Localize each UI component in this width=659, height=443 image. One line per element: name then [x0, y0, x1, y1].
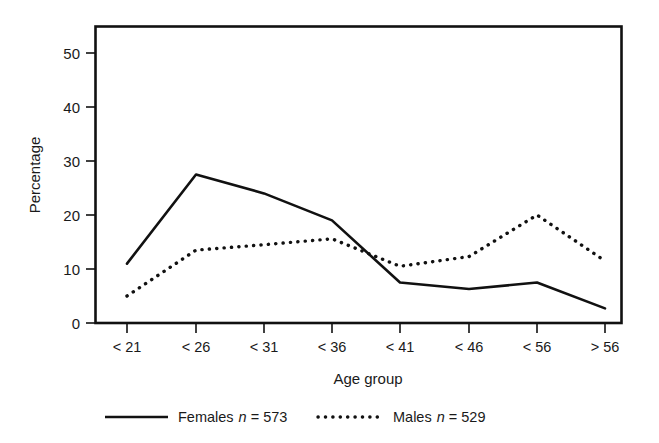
- x-tick-label: < 31: [250, 339, 279, 355]
- y-tick-label: 20: [63, 207, 80, 224]
- x-tick-label: < 36: [318, 339, 347, 355]
- x-axis-title: Age group: [333, 370, 402, 387]
- line-chart-svg: 0 10 20 30 40 50 Percentage < 21 < 26 < …: [0, 0, 659, 443]
- series-line-females: [127, 175, 605, 309]
- x-tick-label: < 21: [113, 339, 142, 355]
- x-tick-label: < 56: [523, 339, 552, 355]
- y-axis-ticks: [86, 53, 95, 323]
- plot-frame: [96, 27, 622, 324]
- x-axis-tick-labels: < 21 < 26 < 31 < 36 < 41 < 46 < 56 > 56: [113, 339, 620, 355]
- x-axis-ticks: [127, 323, 605, 333]
- chart-figure: 0 10 20 30 40 50 Percentage < 21 < 26 < …: [0, 0, 659, 443]
- chart-legend: Femalesn= 573 Malesn= 529: [105, 409, 485, 425]
- y-axis-title: Percentage: [26, 137, 43, 214]
- x-tick-label: < 46: [455, 339, 484, 355]
- x-tick-label: < 41: [386, 339, 415, 355]
- y-tick-label: 50: [63, 45, 80, 62]
- legend-label-females: Femalesn= 573: [178, 409, 287, 425]
- x-tick-label: < 26: [182, 339, 211, 355]
- y-tick-label: 30: [63, 153, 80, 170]
- y-tick-label: 40: [63, 99, 80, 116]
- y-axis-tick-labels: 0 10 20 30 40 50: [63, 45, 80, 332]
- y-tick-label: 0: [72, 315, 80, 332]
- y-tick-label: 10: [63, 261, 80, 278]
- legend-label-males: Malesn= 529: [393, 409, 485, 425]
- x-tick-label: > 56: [591, 339, 620, 355]
